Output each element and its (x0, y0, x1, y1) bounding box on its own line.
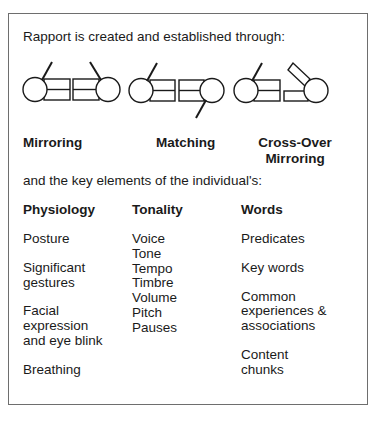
method-label-matching: Matching (156, 135, 215, 151)
matching-figure-left-icon (129, 63, 175, 103)
list-item: Volume (132, 291, 177, 306)
list-item: Tone (132, 247, 177, 262)
mirroring-figure-left-icon (23, 62, 70, 102)
column-heading-physiology: Physiology (23, 202, 95, 217)
list-item: Predicates (241, 232, 327, 247)
crossover-figure-left-icon (234, 63, 280, 103)
list-item-line: gestures (23, 276, 103, 291)
list-item: Content chunks (241, 348, 327, 378)
list-item: Tempo (132, 262, 177, 277)
list-item-line: and eye blink (23, 334, 103, 349)
list-item: Significant gestures (23, 261, 103, 291)
list-item: Pauses (132, 321, 177, 336)
method-label-crossover: Cross-Over Mirroring (255, 135, 335, 167)
crossover-figure-right-icon (284, 63, 328, 103)
list-item: Breathing (23, 363, 103, 378)
words-list: Predicates Key words Common experiences … (241, 232, 327, 378)
list-item-line: Significant (23, 261, 103, 276)
list-item: Timbre (132, 276, 177, 291)
list-item-line: experiences & (241, 304, 327, 319)
list-item-line: associations (241, 319, 327, 334)
matching-figure-right-icon (179, 79, 224, 119)
list-item-line: Common (241, 290, 327, 305)
rapport-figures (0, 0, 378, 140)
list-item-line: expression (23, 319, 103, 334)
list-item: Facial expression and eye blink (23, 304, 103, 348)
list-item-line: Facial (23, 304, 103, 319)
list-item: Key words (241, 261, 327, 276)
mirroring-figure-right-icon (73, 62, 120, 102)
column-heading-tonality: Tonality (132, 202, 183, 217)
list-item: Posture (23, 232, 103, 247)
method-label-mirroring: Mirroring (23, 135, 82, 151)
crossover-line2: Mirroring (255, 151, 335, 167)
list-item: Pitch (132, 306, 177, 321)
list-item: Common experiences & associations (241, 290, 327, 334)
list-item-line: chunks (241, 363, 327, 378)
physiology-list: Posture Significant gestures Facial expr… (23, 232, 103, 378)
tonality-list: Voice Tone Tempo Timbre Volume Pitch Pau… (132, 232, 177, 336)
list-item: Voice (132, 232, 177, 247)
crossover-line1: Cross-Over (255, 135, 335, 151)
list-item-line: Content (241, 348, 327, 363)
column-heading-words: Words (241, 202, 283, 217)
elements-intro: and the key elements of the individual's… (23, 173, 262, 188)
